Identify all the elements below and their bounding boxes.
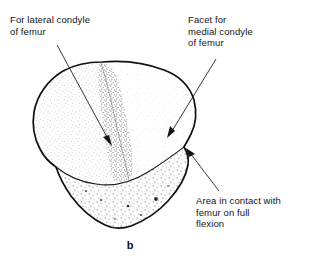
leader-contact-area xyxy=(190,153,219,191)
label-area-in-contact-with-femur: Area in contact with femur on full flexi… xyxy=(196,195,281,230)
figure-caption: b xyxy=(0,239,260,251)
label-for-lateral-condyle: For lateral condyle of femur xyxy=(10,14,90,37)
patella-figure: For lateral condyle of femur Facet for m… xyxy=(0,0,326,269)
label-facet-for-medial-condyle: Facet for medial condyle of femur xyxy=(188,14,253,49)
